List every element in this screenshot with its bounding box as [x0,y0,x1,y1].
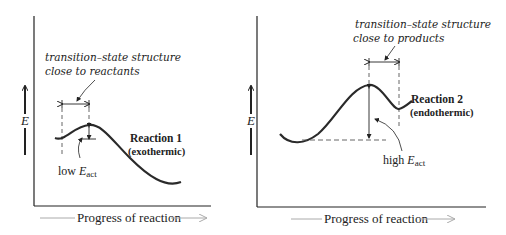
x-axis-label: Progress of reaction [324,211,428,226]
panel-reaction-2: E transition–state structure close to pr… [246,16,491,226]
activation-energy-label: high Eact [383,153,426,168]
reaction-type: (endothermic) [410,107,474,119]
reaction-label: Reaction 1 [130,132,182,144]
reaction-type: (exothermic) [128,146,186,158]
reaction-label: Reaction 2 [411,93,463,105]
panel-reaction-1: E transition–state structure close to re… [20,16,211,225]
energy-diagram: E transition–state structure close to re… [0,0,506,235]
annotation-line-2: close to reactants [45,65,140,77]
annotation-line-1: transition–state structure [45,51,181,63]
y-axis-label: E [246,113,255,128]
annotation-line-2: close to products [353,32,445,44]
y-axis-label: E [20,113,29,128]
energy-curve [280,85,412,142]
annotation-line-1: transition–state structure [355,18,491,30]
activation-energy-label: low Eact [58,164,97,179]
x-axis-label: Progress of reaction [77,210,181,225]
